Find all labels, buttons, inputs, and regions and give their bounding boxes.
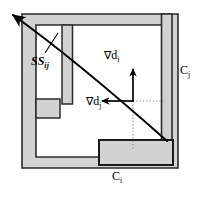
- cj-label-subscript: j: [188, 70, 190, 79]
- ci-label-text: C: [112, 169, 120, 183]
- ss-label-text: SS: [31, 54, 44, 68]
- dj-label-subscript: j: [99, 101, 101, 110]
- separating-surface-label: SSij: [31, 55, 49, 70]
- bottom-right-block: [99, 140, 173, 165]
- ss-label-subscript: ij: [44, 61, 49, 70]
- diagram-canvas: SSij ∇di ∇dj Cj Ci: [0, 0, 200, 198]
- wall-group: [22, 14, 178, 168]
- gradient-dj-label: ∇dj: [86, 95, 102, 110]
- boundary-cj-label: Cj: [180, 64, 190, 79]
- ci-label-subscript: i: [120, 176, 122, 185]
- ss-leader-line: [45, 33, 58, 53]
- interior-partition: [62, 25, 73, 104]
- right-wall-slab: [162, 14, 173, 143]
- gradient-di-label: ∇di: [104, 49, 120, 64]
- di-label-subscript: i: [117, 55, 119, 64]
- cj-label-text: C: [180, 63, 188, 77]
- boundary-ci-label: Ci: [112, 170, 122, 185]
- left-notch-block: [36, 99, 60, 118]
- gradient-origin-point: [132, 100, 134, 102]
